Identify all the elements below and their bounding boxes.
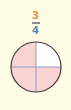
fraction-circle	[0, 0, 71, 110]
